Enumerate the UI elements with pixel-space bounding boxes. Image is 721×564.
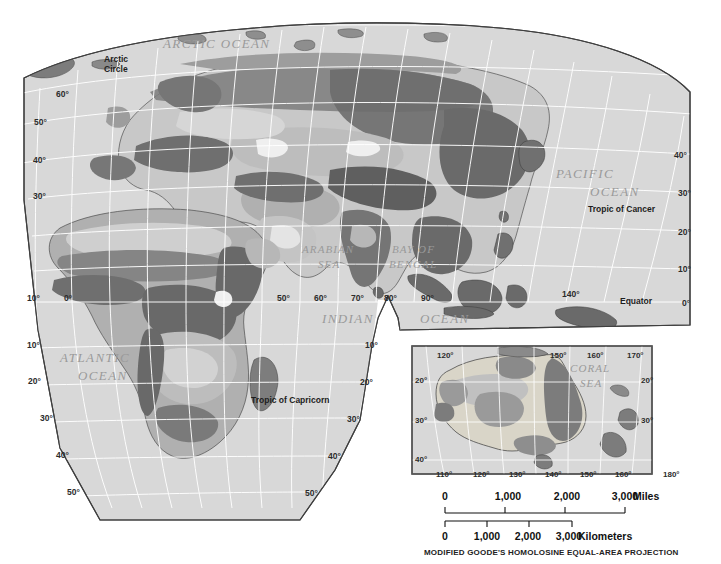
ocean-label-bay_of_bengal_2: BENGAL bbox=[389, 258, 437, 270]
graticule-label-inset-14: 160° bbox=[615, 470, 632, 479]
graticule-label-main-1: 50° bbox=[34, 117, 47, 127]
graticule-label-main-18: 20° bbox=[28, 376, 41, 386]
ocean-label-arabian_sea_1: ARABIAN bbox=[301, 243, 354, 255]
graticule-label-inset-9: 110° bbox=[436, 470, 452, 479]
graticule-label-inset-11: 130° bbox=[509, 470, 526, 479]
ocean-label-bay_of_bengal_1: BAY OF bbox=[392, 243, 435, 255]
graticule-label-main-21: 50° bbox=[67, 487, 80, 497]
australia-inset bbox=[412, 346, 652, 474]
graticule-label-inset-13: 150° bbox=[580, 470, 597, 479]
graticule-label-inset-2: 160° bbox=[587, 351, 604, 360]
scale-km-tick-0: 0 bbox=[442, 530, 448, 542]
graticule-label-main-23: 20° bbox=[360, 377, 373, 387]
graticule-label-inset-12: 140° bbox=[545, 470, 562, 479]
graticule-label-inset-10: 120° bbox=[473, 470, 490, 479]
graticule-label-inset-4: 20° bbox=[415, 376, 427, 385]
ocean-label-indian_ocean_2: OCEAN bbox=[420, 311, 470, 326]
graticule-label-inset-3: 170° bbox=[627, 351, 644, 360]
graticule-label-main-17: 10° bbox=[27, 340, 40, 350]
reference-label-arctic_circle_1: Arctic bbox=[104, 54, 128, 64]
scale-km-tick-1: 1,000 bbox=[474, 530, 500, 542]
graticule-label-inset-6: 30° bbox=[415, 416, 427, 425]
graticule-label-main-10: 90° bbox=[421, 293, 434, 303]
scale-miles-tick-1: 1,000 bbox=[495, 490, 521, 502]
reference-label-tropic_of_cancer: Tropic of Cancer bbox=[588, 204, 656, 214]
ocean-label-pacific_ocean_1: PACIFIC bbox=[555, 166, 614, 181]
graticule-label-main-11: 140° bbox=[562, 289, 580, 299]
biome-australia-sw bbox=[434, 403, 454, 422]
reference-label-tropic_of_capricorn: Tropic of Capricorn bbox=[251, 395, 329, 405]
reference-label-equator: Equator bbox=[620, 296, 653, 306]
graticule-label-main-25: 40° bbox=[328, 451, 341, 461]
landmass-sulawesi bbox=[506, 285, 527, 308]
graticule-label-inset-1: 150° bbox=[550, 351, 567, 360]
graticule-label-main-3: 30° bbox=[33, 191, 46, 201]
graticule-label-inset-7: 30° bbox=[641, 416, 653, 425]
ocean-label-coral_sea_1: CORAL bbox=[570, 362, 610, 374]
graticule-label-main-0: 60° bbox=[56, 89, 69, 99]
graticule-label-main-4: 10° bbox=[27, 293, 40, 303]
graticule-label-main-2: 40° bbox=[33, 155, 46, 165]
graticule-label-inset-0: 120° bbox=[437, 351, 454, 360]
graticule-label-main-14: 20° bbox=[678, 227, 691, 237]
graticule-label-inset-8: 40° bbox=[415, 455, 427, 464]
ocean-label-atlantic_ocean_2: OCEAN bbox=[78, 368, 128, 383]
graticule-label-inset-5: 20° bbox=[641, 376, 653, 385]
graticule-label-main-7: 60° bbox=[314, 293, 327, 303]
graticule-label-main-22: 10° bbox=[365, 340, 378, 350]
ocean-label-arctic_ocean: ARCTIC OCEAN bbox=[162, 36, 270, 51]
graticule-label-main-24: 30° bbox=[347, 414, 360, 424]
map-svg: ARCTIC OCEANPACIFICOCEANARABIANSEABAY OF… bbox=[0, 0, 721, 564]
graticule-label-main-16: 0° bbox=[682, 298, 691, 308]
scale-km-tick-2: 2,000 bbox=[515, 530, 541, 542]
graticule-label-main-20: 40° bbox=[56, 450, 69, 460]
graticule-label-inset-15: 180° bbox=[663, 470, 680, 479]
graticule-label-main-9: 80° bbox=[384, 293, 397, 303]
graticule-label-main-13: 30° bbox=[678, 188, 691, 198]
graticule-label-main-5: 0° bbox=[64, 293, 73, 303]
projection-caption: MODIFIED GOODE'S HOMOLOSINE EQUAL-AREA P… bbox=[424, 548, 679, 557]
graticule-label-main-19: 30° bbox=[40, 413, 53, 423]
graticule-label-main-15: 10° bbox=[678, 264, 691, 274]
ocean-label-atlantic_ocean_1: ATLANTIC bbox=[59, 350, 130, 365]
ocean-label-pacific_ocean_2: OCEAN bbox=[590, 184, 640, 199]
scale-km-unit: Kilometers bbox=[578, 530, 632, 542]
ocean-label-indian_ocean_1: INDIAN bbox=[321, 311, 374, 326]
graticule-label-main-8: 70° bbox=[351, 293, 364, 303]
graticule-label-main-12: 40° bbox=[674, 150, 687, 160]
biome-britain bbox=[106, 107, 130, 128]
ocean-label-coral_sea_2: SEA bbox=[580, 377, 602, 389]
reference-label-arctic_circle_2: Circle bbox=[104, 64, 128, 74]
graticule-label-main-6: 50° bbox=[277, 293, 290, 303]
graticule-label-main-26: 50° bbox=[305, 488, 318, 498]
scale-miles-tick-2: 2,000 bbox=[554, 490, 580, 502]
scale-miles-tick-0: 0 bbox=[442, 490, 448, 502]
ocean-label-arabian_sea_2: SEA bbox=[318, 258, 340, 270]
landmass-novaya-zemlya bbox=[294, 40, 315, 51]
map-figure: ARCTIC OCEANPACIFICOCEANARABIANSEABAY OF… bbox=[0, 0, 721, 564]
scale-miles-unit: Miles bbox=[633, 490, 659, 502]
